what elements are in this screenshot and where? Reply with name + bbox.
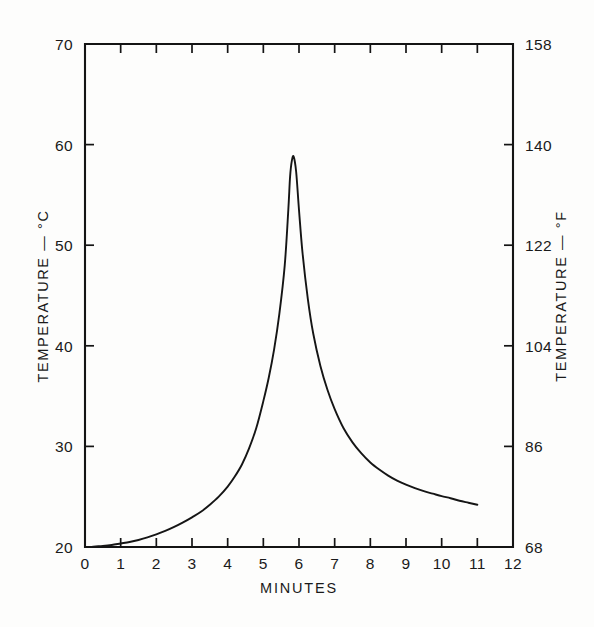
y-axis-fahrenheit-title: TEMPERATURE — °F (553, 210, 569, 381)
y-axis-celsius-title: TEMPERATURE — °C (35, 210, 51, 383)
y-tick-label: 70 (55, 36, 73, 53)
x-tick-label: 10 (433, 555, 451, 572)
y2-tick-label: 122 (525, 237, 552, 254)
y-axis-fahrenheit-tick-labels: 6886104122140158 (525, 36, 552, 556)
y2-tick-label: 104 (525, 338, 552, 355)
y-tick-label: 30 (55, 438, 73, 455)
x-tick-label: 6 (294, 555, 303, 572)
x-tick-label: 3 (187, 555, 196, 572)
top-axis-tick-marks (121, 44, 478, 53)
x-axis-tick-marks (121, 538, 478, 547)
axes-border (85, 44, 513, 547)
y2-tick-label: 140 (525, 137, 552, 154)
y-axis-celsius-tick-labels: 203040506070 (55, 36, 73, 556)
y-axis-fahrenheit-tick-marks (504, 145, 513, 447)
y-tick-label: 60 (55, 137, 73, 154)
x-axis-title: MINUTES (260, 580, 338, 596)
x-tick-label: 8 (366, 555, 375, 572)
x-tick-label: 5 (259, 555, 268, 572)
x-tick-label: 12 (504, 555, 522, 572)
temperature-time-chart: 0123456789101112 203040506070 6886104122… (0, 0, 594, 627)
y2-tick-label: 86 (525, 438, 543, 455)
x-axis-tick-labels: 0123456789101112 (80, 555, 522, 572)
x-tick-label: 1 (116, 555, 125, 572)
y2-tick-label: 68 (525, 539, 543, 556)
y-axis-celsius-tick-marks (85, 145, 94, 447)
chart-figure: 0123456789101112 203040506070 6886104122… (0, 0, 594, 627)
y-tick-label: 50 (55, 237, 73, 254)
temperature-curve (85, 156, 477, 547)
x-tick-label: 0 (80, 555, 89, 572)
y-tick-label: 40 (55, 338, 73, 355)
x-tick-label: 9 (401, 555, 410, 572)
plot-frame (85, 44, 513, 547)
x-tick-label: 11 (469, 555, 486, 572)
y2-tick-label: 158 (525, 36, 552, 53)
y-tick-label: 20 (55, 539, 73, 556)
x-tick-label: 4 (223, 555, 232, 572)
x-tick-label: 2 (152, 555, 161, 572)
x-tick-label: 7 (330, 555, 339, 572)
